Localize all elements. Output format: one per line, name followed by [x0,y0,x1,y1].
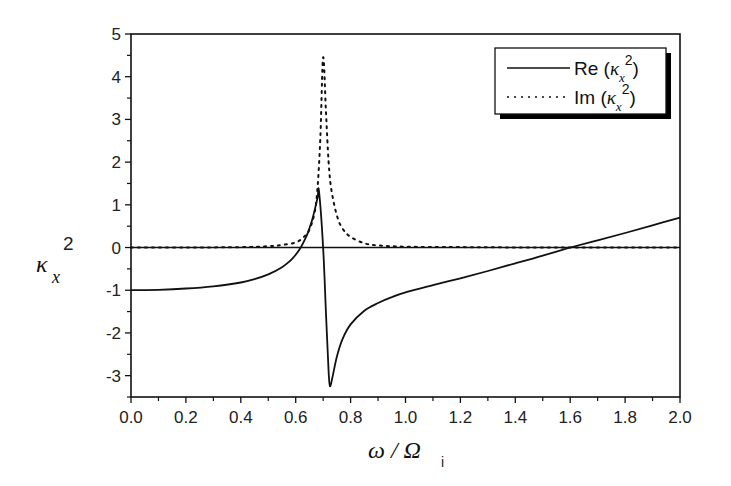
y-tick-label: 1 [112,196,121,215]
series-re-line [131,188,680,386]
x-tick-label: 0.4 [229,408,253,427]
y-tick-label: 4 [112,68,121,87]
x-tick-label: 1.0 [394,408,418,427]
x-title-main: ω / Ω [368,437,421,463]
x-title-sub: i [441,454,444,470]
y-title-main: κ [36,251,48,277]
y-tick-label: -3 [106,367,121,386]
y-tick-label: 0 [112,239,121,258]
x-title-omega: ω / Ω [368,437,421,463]
x-tick-label: 1.4 [503,408,527,427]
x-tick-label: 1.6 [558,408,582,427]
y-title-sup: 2 [63,233,74,254]
y-axis-ticks: -3-2-1012345 [106,25,131,397]
y-tick-label: -1 [106,281,121,300]
y-tick-label: 5 [112,25,121,44]
y-tick-label: 3 [112,110,121,129]
x-axis-ticks: 0.00.20.40.60.81.01.21.41.61.82.0 [119,397,692,427]
y-tick-label: 2 [112,153,121,172]
chart-canvas: 0.00.20.40.60.81.01.21.41.61.82.0 -3-2-1… [0,0,731,486]
x-tick-label: 0.0 [119,408,143,427]
x-tick-label: 0.6 [284,408,308,427]
x-tick-label: 0.2 [174,408,198,427]
x-tick-label: 0.8 [339,408,363,427]
y-tick-label: -2 [106,324,121,343]
x-tick-label: 1.8 [613,408,637,427]
x-tick-label: 2.0 [668,408,692,427]
y-axis-title: κ x 2 [36,233,74,287]
legend: Re (κx2) Im (κx2) [495,48,671,119]
y-title-sub: x [51,267,60,287]
x-tick-label: 1.2 [449,408,473,427]
x-axis-title: ω / Ω i [368,437,444,470]
